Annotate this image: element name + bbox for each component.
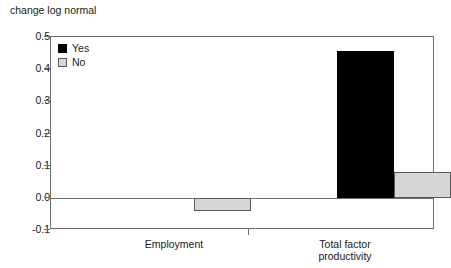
y-axis: 0.50.40.30.20.10.0-0.1	[0, 0, 50, 268]
x-axis-label-employment: Employment	[104, 238, 244, 250]
bar-no-total-factor-productivity	[394, 172, 451, 198]
legend-label-no: No	[72, 57, 85, 68]
bar-chart-figure: change log normal 0.50.40.30.20.10.0-0.1…	[0, 0, 451, 268]
x-axis-label-employment-line1: Employment	[104, 238, 244, 250]
x-axis-label-total-factor-productivity: Total factor productivity	[275, 238, 415, 262]
legend-swatch-no-icon	[58, 58, 67, 67]
legend-label-yes: Yes	[72, 43, 89, 54]
y-axis-tick-mark	[44, 229, 50, 230]
bar-yes-total-factor-productivity	[337, 51, 394, 197]
x-axis-label-tfp-line1: Total factor	[275, 238, 415, 250]
legend-swatch-yes-icon	[58, 44, 67, 53]
plot-area	[50, 36, 434, 229]
legend-item-no: No	[58, 56, 89, 69]
legend: Yes No	[58, 42, 89, 70]
x-axis-category-separator-tick	[248, 229, 249, 235]
x-axis-label-tfp-line2: productivity	[275, 250, 415, 262]
bar-no-employment	[194, 198, 251, 212]
legend-item-yes: Yes	[58, 42, 89, 55]
